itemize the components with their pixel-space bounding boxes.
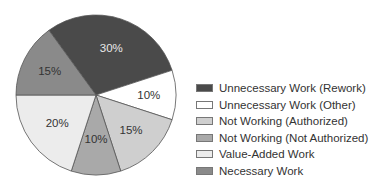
legend-swatch [196,167,213,175]
legend-label: Value-Added Work [219,148,314,160]
legend-swatch [196,84,213,92]
legend-item-not-authorized: Not Working (Not Authorized) [196,130,368,147]
slice-label: 15% [120,124,143,136]
legend-label: Necessary Work [219,165,303,177]
chart-legend: Unnecessary Work (Rework) Unnecessary Wo… [196,80,368,179]
legend-item-rework: Unnecessary Work (Rework) [196,80,368,97]
slice-label: 30% [100,42,123,54]
legend-swatch [196,134,213,142]
pie-chart: 30%10%15%10%20%15% [0,0,200,188]
legend-swatch [196,117,213,125]
legend-swatch [196,101,213,109]
slice-label: 20% [46,117,69,129]
legend-item-other: Unnecessary Work (Other) [196,97,368,114]
slice-label: 10% [84,133,107,145]
legend-item-authorized: Not Working (Authorized) [196,113,368,130]
legend-label: Not Working (Authorized) [219,115,348,127]
slice-label: 10% [137,89,160,101]
legend-item-necessary: Necessary Work [196,163,368,180]
legend-item-value-added: Value-Added Work [196,146,368,163]
legend-label: Unnecessary Work (Rework) [219,82,366,94]
legend-swatch [196,150,213,158]
legend-label: Unnecessary Work (Other) [219,99,356,111]
slice-label: 15% [38,65,61,77]
legend-label: Not Working (Not Authorized) [219,132,368,144]
